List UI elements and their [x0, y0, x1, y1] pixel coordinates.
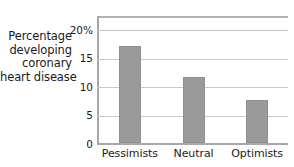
y-axis-tick-label: 0	[56, 138, 93, 150]
bar	[183, 77, 205, 143]
y-axis-tick-label: 5	[56, 109, 93, 121]
y-axis-tick-label: 15	[56, 52, 93, 64]
x-axis-tick-label: Pessimists	[98, 147, 162, 160]
y-axis-tick-label: 10	[56, 81, 93, 93]
x-axis-tick-label: Optimists	[225, 147, 289, 160]
plot-frame-bottom	[97, 143, 288, 145]
y-axis-tick-label: 20%	[56, 24, 93, 36]
plot-frame-top	[97, 16, 288, 18]
y-axis-tick-labels: 05101520%	[56, 0, 93, 167]
gridline	[97, 30, 288, 31]
bar	[119, 46, 141, 143]
plot-area	[97, 16, 288, 144]
bar	[246, 100, 268, 143]
plot-frame-left	[97, 16, 99, 144]
x-axis-tick-labels: PessimistsNeutralOptimists	[97, 147, 288, 165]
x-axis-tick-label: Neutral	[162, 147, 226, 160]
bar-chart-figure: Percentage developing coronary heart dis…	[0, 0, 294, 167]
